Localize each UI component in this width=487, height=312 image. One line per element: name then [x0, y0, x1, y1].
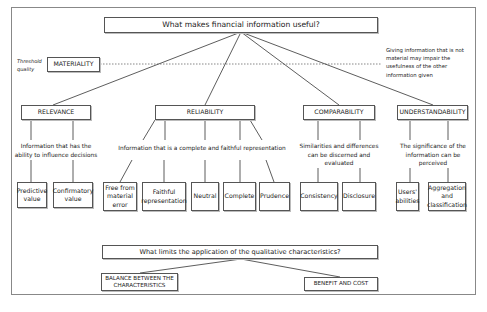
users-abilities-box: Users' abilities — [396, 182, 419, 211]
relevance-box: RELEVANCE — [21, 105, 91, 120]
predictive-value-box: Predictive value — [17, 182, 47, 208]
confirmatory-value-box: Confirmatory value — [53, 182, 93, 208]
neutral-box: Neutral — [191, 182, 219, 211]
reliability-box: RELIABILITY — [155, 105, 255, 120]
comparability-box: COMPARABILITY — [303, 105, 375, 120]
balance-box: BALANCE BETWEEN THE CHARACTERISTICS — [101, 273, 178, 291]
relevance-description: Information that has the ability to infl… — [14, 142, 98, 159]
complete-box: Complete — [223, 182, 256, 211]
disclosure-box: Disclosure — [342, 182, 376, 211]
understandability-box: UNDERSTANDABILITY — [397, 105, 468, 120]
bottom-question-box: What limits the application of the quali… — [102, 245, 378, 259]
benefit-cost-box: BENEFIT AND COST — [304, 277, 378, 291]
aggregation-classification-box: Aggregation and classification — [428, 182, 466, 211]
materiality-note: Giving information that is not material … — [386, 46, 476, 79]
top-question-box: What makes financial information useful? — [104, 17, 378, 33]
materiality-box: MATERIALITY — [47, 57, 100, 72]
top-question-text: What makes financial information useful? — [162, 20, 319, 30]
reliability-description: Information that is a complete and faith… — [116, 144, 288, 153]
faithful-representation-box: Faithful representation — [142, 182, 186, 211]
understandability-description: The significance of the information can … — [393, 142, 473, 168]
prudence-box: Prudence — [259, 182, 290, 211]
comparability-description: Similarities and differences can be disc… — [294, 142, 384, 168]
consistency-box: Consistency — [300, 182, 338, 211]
threshold-quality-label: Threshold quality — [17, 58, 45, 74]
free-from-material-error-box: Free from material error — [103, 182, 137, 211]
